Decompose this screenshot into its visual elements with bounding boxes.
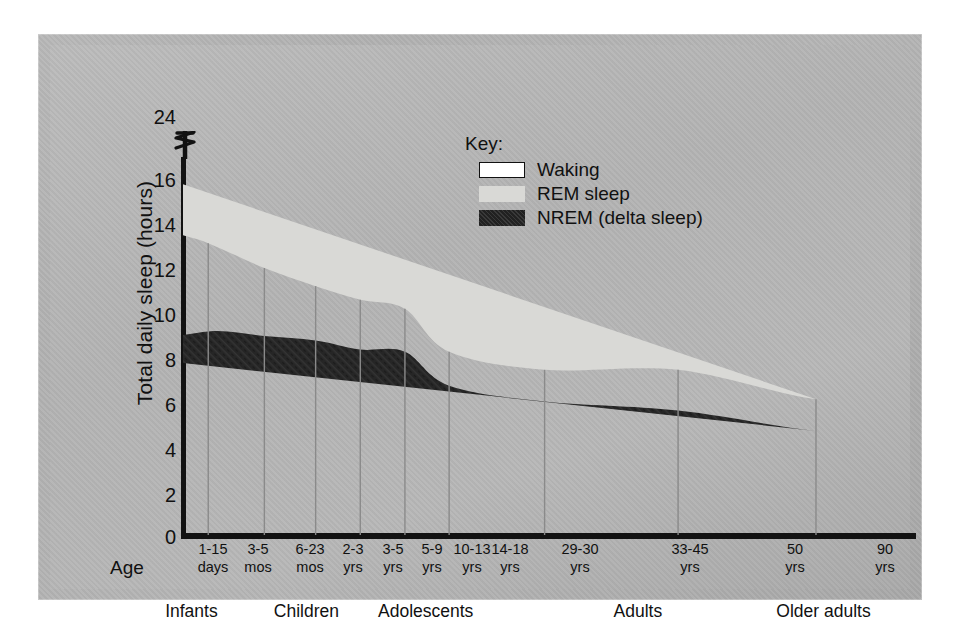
- legend-item-label: Waking: [537, 159, 600, 181]
- y-tick-label: 8: [130, 350, 176, 370]
- x-tick-line1: 5-9: [422, 541, 443, 557]
- legend-item: Waking: [479, 158, 755, 181]
- x-tick-label: 29-30yrs: [561, 541, 598, 576]
- x-tick-line1: 2-3: [343, 541, 364, 557]
- x-tick-line2: yrs: [875, 559, 894, 577]
- y-tick-label: 10: [130, 305, 176, 325]
- age-group-label: Older adults: [776, 601, 870, 622]
- chart-plate: Total daily sleep (hours) 24161412108642…: [38, 34, 922, 600]
- legend-item-label: REM sleep: [537, 183, 630, 205]
- axis-break-icon: [170, 131, 200, 159]
- x-tick-line1: 6-23: [295, 541, 324, 557]
- nrem-swatch-icon: [479, 210, 525, 226]
- x-tick-label: 14-18yrs: [491, 541, 528, 576]
- x-tick-line2: yrs: [343, 559, 364, 577]
- age-group-label: Adolescents: [378, 601, 473, 622]
- x-tick-line2: mos: [295, 559, 324, 577]
- age-group-label: Adults: [614, 601, 663, 622]
- x-tick-line1: 33-45: [671, 541, 708, 557]
- waking-swatch-icon: [479, 162, 525, 178]
- y-tick-label: 14: [130, 215, 176, 235]
- x-tick-label: 3-5mos: [244, 541, 271, 576]
- x-tick-line2: yrs: [561, 559, 598, 577]
- x-tick-line2: yrs: [422, 559, 443, 577]
- y-tick-label: 4: [130, 440, 176, 460]
- y-tick-label: 12: [130, 260, 176, 280]
- rem-swatch-icon: [479, 186, 525, 202]
- x-tick-line1: 14-18: [491, 541, 528, 557]
- x-tick-line2: yrs: [671, 559, 708, 577]
- y-tick-label: 2: [130, 485, 176, 505]
- chart-page: Total daily sleep (hours) 24161412108642…: [0, 0, 961, 633]
- x-tick-label: 10-13yrs: [453, 541, 490, 576]
- legend-item: REM sleep: [479, 182, 755, 205]
- x-tick-line1: 1-15: [198, 541, 227, 557]
- chart-field: Total daily sleep (hours) 24161412108642…: [50, 45, 910, 589]
- x-tick-line2: yrs: [453, 559, 490, 577]
- x-tick-label: 5-9yrs: [422, 541, 443, 576]
- x-tick-label: 3-5yrs: [383, 541, 404, 576]
- x-tick-line2: days: [198, 559, 229, 577]
- legend-item-label: NREM (delta sleep): [537, 207, 703, 229]
- x-tick-line1: 3-5: [248, 541, 269, 557]
- x-tick-line1: 50: [787, 541, 803, 557]
- x-tick-label: 90yrs: [875, 541, 894, 576]
- legend-item: NREM (delta sleep): [479, 206, 755, 229]
- x-tick-line2: yrs: [785, 559, 804, 577]
- age-group-label: Children: [274, 601, 339, 622]
- x-tick-label: 33-45yrs: [671, 541, 708, 576]
- legend-title: Key:: [465, 133, 755, 155]
- x-tick-line2: yrs: [491, 559, 528, 577]
- x-tick-line2: yrs: [383, 559, 404, 577]
- x-axis-ticks: 1-15days3-5mos6-23mos2-3yrs3-5yrs5-9yrs1…: [50, 541, 934, 587]
- x-tick-line1: 90: [877, 541, 893, 557]
- x-tick-line1: 10-13: [453, 541, 490, 557]
- x-tick-label: 2-3yrs: [343, 541, 364, 576]
- x-tick-label: 6-23mos: [295, 541, 324, 576]
- y-tick-label: 24: [130, 107, 176, 127]
- y-tick-label: 16: [130, 170, 176, 190]
- x-tick-label: 50yrs: [785, 541, 804, 576]
- legend-rows: WakingREM sleepNREM (delta sleep): [465, 158, 755, 229]
- x-tick-label: 1-15days: [198, 541, 229, 576]
- x-tick-line1: 3-5: [383, 541, 404, 557]
- y-axis-ticks: 241614121086420: [122, 45, 176, 605]
- age-group-labels: InfantsChildrenAdolescentsAdultsOlder ad…: [50, 601, 934, 631]
- x-tick-line2: mos: [244, 559, 271, 577]
- y-tick-label: 6: [130, 395, 176, 415]
- age-group-label: Infants: [165, 601, 218, 622]
- x-tick-line1: 29-30: [561, 541, 598, 557]
- legend: Key: WakingREM sleepNREM (delta sleep): [465, 133, 755, 230]
